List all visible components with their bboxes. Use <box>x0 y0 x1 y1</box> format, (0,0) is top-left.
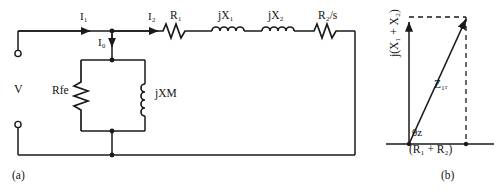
label-resistor-rfe: Rfe <box>52 85 69 97</box>
label-phasor-impedance: Z₁ᵣ <box>434 79 448 91</box>
inductor-jx2-symbol <box>262 27 294 31</box>
label-current-i1: I₁ <box>80 11 88 22</box>
label-current-i2: I₂ <box>148 11 156 22</box>
label-phasor-angle: θᴢ <box>412 127 422 138</box>
caption-b: (b) <box>441 170 454 182</box>
figure-vector-layer <box>0 0 500 194</box>
inductor-jx1-symbol <box>212 27 244 31</box>
label-current-i0: I₀ <box>98 37 106 48</box>
figure-root: I₁ I₂ I₀ R₁ jX₁ jX₂ R₂/s V Rfe jXM (a) j… <box>0 0 500 194</box>
node-top-shunt <box>110 29 115 34</box>
inductor-jxm-symbol <box>141 84 145 116</box>
label-phasor-resistance-axis: (R₁ + R₂) <box>409 144 452 156</box>
label-resistor-r1: R₁ <box>170 10 182 22</box>
resistor-r2s-symbol <box>312 24 355 38</box>
terminal-bottom-node <box>15 121 21 127</box>
label-inductor-jxm: jXM <box>155 88 177 100</box>
node-shunt-merge <box>110 129 115 134</box>
phasor-resistance-node <box>464 142 468 146</box>
label-source-voltage: V <box>14 83 23 95</box>
label-inductor-jx1: jX₁ <box>218 10 234 22</box>
label-resistor-r2s: R₂/s <box>318 10 337 22</box>
node-bottom-rail <box>110 153 115 158</box>
resistor-r1-symbol <box>161 24 205 38</box>
resistor-rfe-symbol <box>74 60 88 131</box>
terminal-top-node <box>15 50 21 56</box>
label-inductor-jx2: jX₂ <box>268 10 284 22</box>
label-phasor-reactance-axis: j(X₁ + X₂) <box>389 9 401 57</box>
caption-a: (a) <box>12 170 25 182</box>
